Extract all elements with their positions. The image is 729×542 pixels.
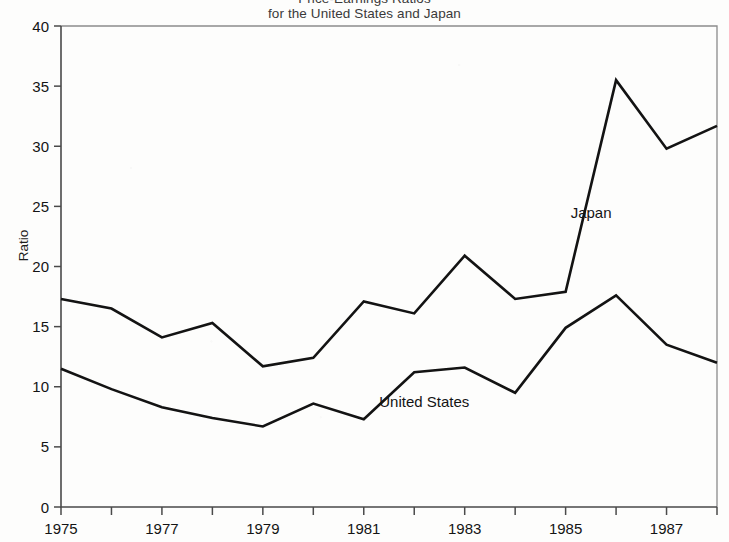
x-tick-label: 1975 [44,520,77,537]
y-tick-label: 0 [41,499,49,516]
x-tick-label: 1983 [448,520,481,537]
y-axis-ticks: 0510152025303540 [32,18,61,516]
x-tick-label: 1977 [145,520,178,537]
series-label-japan: Japan [571,204,612,221]
line-chart-plot: 0510152025303540 19751977197919811983198… [0,0,729,542]
x-tick-label: 1987 [650,520,683,537]
chart-figure: Price-Earnings Ratios for the United Sta… [0,0,729,542]
y-tick-label: 20 [32,258,49,275]
x-axis-ticks: 1975197719791981198319851987 [44,507,717,537]
x-tick-label: 1985 [549,520,582,537]
series-label-united-states: United States [379,393,469,410]
data-series-group [61,80,717,426]
y-tick-label: 15 [32,318,49,335]
plot-frame [61,26,717,507]
y-tick-label: 25 [32,198,49,215]
x-tick-label: 1981 [347,520,380,537]
plot-frame-outline [61,26,717,507]
series-annotations-group: JapanUnited States [379,204,611,410]
plot-axes [61,26,717,507]
y-tick-label: 5 [41,438,49,455]
y-tick-label: 40 [32,18,49,35]
y-tick-label: 30 [32,138,49,155]
x-tick-label: 1979 [246,520,279,537]
data-line-japan [61,80,717,366]
y-tick-label: 35 [32,78,49,95]
y-tick-label: 10 [32,378,49,395]
